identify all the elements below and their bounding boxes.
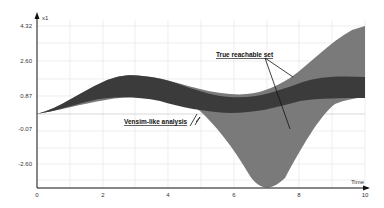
x-axis-title: Time — [351, 179, 365, 185]
y-axis-arrow-icon — [35, 12, 40, 19]
y-tick-label: 4.32 — [20, 23, 32, 29]
x-tick-label: 2 — [101, 192, 105, 198]
x-axis-arrow-icon — [363, 186, 370, 191]
x-tick-label: 6 — [232, 192, 236, 198]
y-tick-label: -2.60 — [18, 161, 32, 167]
x-tick-label: 8 — [297, 192, 301, 198]
x-tick-label: 4 — [166, 192, 170, 198]
annotation-true-reachable-set: True reachable set — [216, 51, 274, 58]
y-tick-label: -0.07 — [18, 126, 32, 132]
y-tick-label: 0.87 — [20, 93, 32, 99]
annotation-vensim-like-analysis: Vensim-like analysis — [124, 118, 188, 126]
y-tick-label: 2.60 — [20, 58, 32, 64]
x-tick-label: 0 — [35, 192, 39, 198]
chart: 4.32 2.60 0.87 -0.07 -2.60 0 2 4 6 8 10 … — [0, 0, 384, 208]
chart-canvas: 4.32 2.60 0.87 -0.07 -2.60 0 2 4 6 8 10 … — [0, 0, 384, 208]
x-tick-label: 10 — [362, 192, 369, 198]
y-axis-title: x1 — [42, 15, 49, 21]
